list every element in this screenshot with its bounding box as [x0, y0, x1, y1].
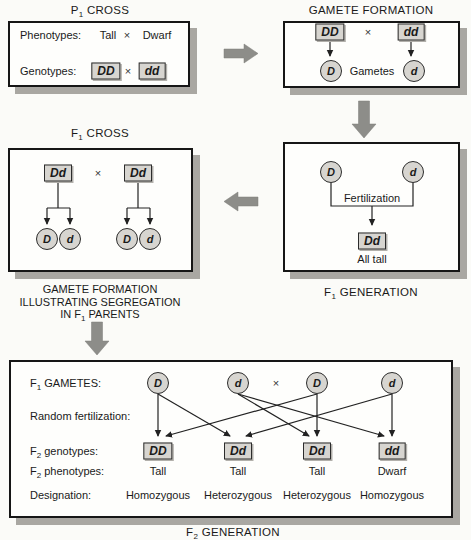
phenotype-cell: Tall: [150, 465, 167, 478]
designation-cell: Homozygous: [126, 489, 190, 502]
allele-box-DD: DD: [91, 63, 120, 80]
allele-box-Dd: Dd: [224, 443, 252, 460]
gamete-formation-title: GAMETE FORMATION: [309, 4, 434, 17]
designation-cell: Homozygous: [360, 489, 424, 502]
random-fertilization-label: Random fertilization:: [30, 410, 130, 423]
mendel-cross-diagram: P1 CROSS Phenotypes: Tall × Dwarf Genoty…: [0, 0, 471, 540]
caption-line-3: IN F1 PARENTS: [20, 308, 181, 321]
gamete-circle-d: d: [402, 161, 424, 183]
f1-cross-title: F1 CROSS: [71, 127, 129, 140]
gamete-circle-D: D: [320, 60, 342, 82]
cross-symbol: ×: [125, 65, 131, 78]
f1-gametes-label: F1 GAMETES:: [30, 377, 101, 390]
gametes-label: Gametes: [350, 65, 395, 78]
allele-box-DD: DD: [315, 24, 344, 41]
phenotype-cell: Tall: [230, 465, 247, 478]
fertilization-label: Fertilization: [344, 192, 400, 205]
f2-genotypes-label: F2 genotypes:: [30, 445, 98, 458]
p1-cross-title: P1 CROSS: [71, 4, 130, 17]
genotypes-label: Genotypes:: [20, 65, 76, 78]
gamete-circle-D: D: [116, 228, 138, 250]
gamete-circle-d: d: [403, 60, 425, 82]
gamete-circle-d: d: [381, 372, 403, 394]
phenotype-cell: Tall: [309, 465, 326, 478]
phenotype-cell: Dwarf: [378, 465, 407, 478]
segregation-caption: GAMETE FORMATION ILLUSTRATING SEGREGATIO…: [20, 283, 181, 321]
phenotypes-label: Phenotypes:: [20, 29, 81, 42]
allele-box-Dd: Dd: [124, 165, 152, 182]
allele-box-Dd: Dd: [44, 165, 72, 182]
allele-box-dd: dd: [139, 63, 166, 80]
gamete-circle-d: d: [59, 228, 81, 250]
phenotype-tall: Tall: [100, 29, 117, 42]
gamete-circle-D: D: [147, 372, 169, 394]
gamete-circle-D: D: [320, 161, 342, 183]
gamete-circle-d: d: [227, 372, 249, 394]
f1-generation-caption: F1 GENERATION: [324, 286, 418, 299]
block-arrow-down-icon: [352, 101, 376, 138]
allele-box-Dd: Dd: [303, 443, 331, 460]
cross-symbol: ×: [124, 29, 130, 42]
designation-cell: Heterozygous: [204, 489, 272, 502]
cross-symbol: ×: [273, 377, 279, 390]
all-tall-label: All tall: [357, 253, 386, 266]
f2-phenotypes-label: F2 phenotypes:: [30, 465, 104, 478]
allele-box-dd: dd: [379, 443, 406, 460]
caption-line-1: GAMETE FORMATION: [20, 283, 181, 296]
block-arrow-down2-icon: [85, 322, 109, 355]
block-arrow-right-icon: [224, 44, 258, 63]
gamete-circle-D: D: [36, 228, 58, 250]
f2-generation-caption: F2 GENERATION: [186, 526, 280, 539]
cross-symbol: ×: [365, 26, 371, 39]
designation-cell: Heterozygous: [283, 489, 351, 502]
gamete-circle-d: d: [139, 228, 161, 250]
block-arrow-left-icon: [224, 192, 258, 211]
designation-label: Designation:: [30, 489, 91, 502]
allele-box-DD: DD: [143, 443, 172, 460]
cross-symbol: ×: [95, 167, 101, 180]
gamete-circle-D: D: [306, 372, 328, 394]
allele-box-Dd: Dd: [358, 233, 386, 250]
caption-line-2: ILLUSTRATING SEGREGATION: [20, 296, 181, 309]
gamete-formation-panel: [283, 21, 460, 88]
allele-box-dd: dd: [398, 24, 425, 41]
phenotype-dwarf: Dwarf: [143, 29, 172, 42]
